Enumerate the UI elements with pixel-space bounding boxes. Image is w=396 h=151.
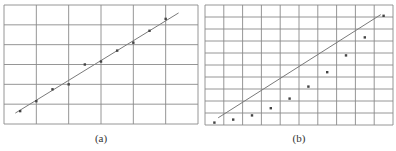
data-point-marker [51, 88, 53, 90]
figure-canvas [0, 0, 396, 151]
caption-b: (b) [279, 132, 319, 144]
fit-line [15, 13, 178, 113]
chart-panel-a [4, 5, 198, 124]
data-point-marker [251, 114, 253, 116]
data-point-marker [382, 15, 384, 17]
data-point-marker [213, 121, 215, 123]
data-point-marker [148, 30, 150, 32]
caption-a: (a) [81, 132, 121, 144]
data-point-marker [164, 18, 166, 20]
data-point-marker [19, 110, 21, 112]
data-point-marker [270, 107, 272, 109]
data-point-marker [307, 85, 309, 87]
data-point-marker [35, 100, 37, 102]
data-point-marker [326, 71, 328, 73]
data-point-marker [288, 97, 290, 99]
data-point-marker [364, 36, 366, 38]
data-point-marker [132, 41, 134, 43]
data-point-marker [67, 83, 69, 85]
chart-panel-b [205, 5, 393, 125]
data-point-marker [232, 118, 234, 120]
data-point-marker [100, 60, 102, 62]
data-point-marker [116, 49, 118, 51]
data-point-marker [84, 63, 86, 65]
data-point-marker [345, 54, 347, 56]
